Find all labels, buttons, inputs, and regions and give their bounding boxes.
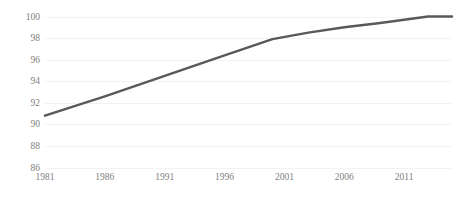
series-polyline — [45, 17, 452, 116]
line-chart-figure: 86889092949698100 1981198619911996200120… — [0, 0, 462, 200]
data-series-line — [0, 0, 462, 200]
